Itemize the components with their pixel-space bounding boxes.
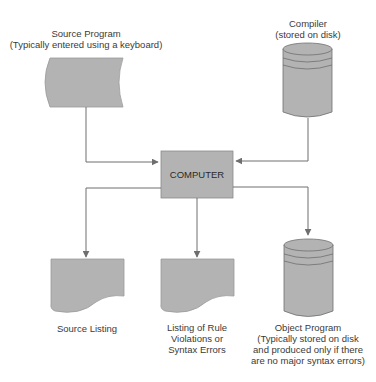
source-listing-title: Source Listing	[37, 323, 137, 334]
source-program-keyboard-shape	[45, 58, 123, 107]
rule-violations-line3: Syntax Errors	[147, 344, 247, 355]
object-program-label: Object Program (Typically stored on disk…	[248, 322, 368, 366]
source-listing-label: Source Listing	[37, 323, 137, 334]
edge-computer-to-source-listing	[86, 188, 161, 257]
rule-violations-label: Listing of Rule Violations or Syntax Err…	[147, 322, 247, 355]
compiler-title: Compiler	[258, 18, 358, 29]
computer-label: COMPUTER	[161, 169, 233, 180]
rule-violations-line1: Listing of Rule	[147, 322, 247, 333]
compiler-subtitle: (stored on disk)	[258, 29, 358, 40]
source-listing-document-shape	[51, 259, 124, 312]
edge-source-to-computer	[86, 107, 158, 162]
edge-compiler-to-computer	[236, 118, 308, 161]
object-program-line4: are no major syntax errors)	[248, 355, 368, 366]
edge-computer-to-object-program	[233, 187, 308, 235]
compiler-disk-cylinder	[283, 43, 332, 117]
source-program-subtitle: (Typically entered using a keyboard)	[0, 39, 172, 50]
rule-violations-document-shape	[161, 259, 234, 312]
object-program-line1: Object Program	[248, 322, 368, 333]
source-program-label: Source Program (Typically entered using …	[0, 28, 172, 50]
object-program-line2: (Typically stored on disk	[248, 333, 368, 344]
rule-violations-line2: Violations or	[147, 333, 247, 344]
object-program-line3: and produced only if there	[248, 344, 368, 355]
compiler-label: Compiler (stored on disk)	[258, 18, 358, 40]
object-program-disk-cylinder	[284, 239, 333, 317]
source-program-title: Source Program	[0, 28, 172, 39]
